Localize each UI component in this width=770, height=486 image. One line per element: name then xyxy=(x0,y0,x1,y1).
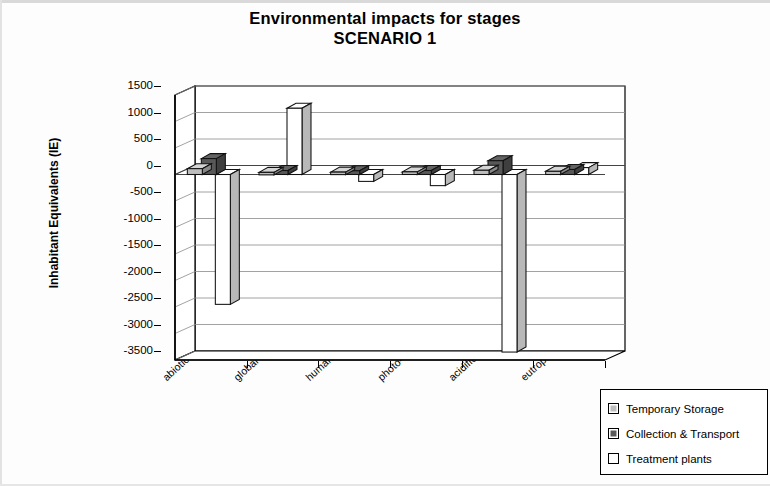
legend-label-temporary-storage: Temporary Storage xyxy=(626,403,724,415)
y-tick-mark xyxy=(154,166,161,167)
legend-item: Temporary Storage xyxy=(608,396,761,421)
bars-layer xyxy=(175,95,645,385)
chart-page: Environmental impacts for stages SCENARI… xyxy=(0,0,770,486)
y-axis-title: Inhabitant Equivalents (IE) xyxy=(47,118,61,308)
y-tick-mark xyxy=(154,86,161,87)
page-edge-left xyxy=(0,0,2,486)
y-tick-mark xyxy=(154,298,161,299)
y-tick-label: 1000 xyxy=(97,107,153,118)
legend-swatch-collection-transport xyxy=(608,428,619,439)
plot-area xyxy=(175,95,605,360)
y-tick-label: -2000 xyxy=(97,266,153,277)
legend-swatch-treatment-plants xyxy=(608,453,619,464)
y-tick-mark xyxy=(154,351,161,352)
legend-item: Collection & Transport xyxy=(608,421,761,446)
chart-title-line2: SCENARIO 1 xyxy=(0,28,770,48)
legend-item: Treatment plants xyxy=(608,446,761,471)
legend-label-collection-transport: Collection & Transport xyxy=(626,428,739,440)
page-edge-top xyxy=(0,0,770,3)
y-tick-label: 1500 xyxy=(97,80,153,91)
y-tick-label: -1500 xyxy=(97,239,153,250)
y-tick-label: 0 xyxy=(97,160,153,171)
bar xyxy=(502,170,526,353)
legend-swatch-temporary-storage xyxy=(608,403,619,414)
y-tick-mark xyxy=(154,219,161,220)
bar xyxy=(287,103,311,174)
bar xyxy=(215,170,239,305)
y-tick-mark xyxy=(154,245,161,246)
legend-label-treatment-plants: Treatment plants xyxy=(626,453,712,465)
chart-title: Environmental impacts for stages SCENARI… xyxy=(0,8,770,48)
y-tick-label: -1000 xyxy=(97,213,153,224)
y-tick-mark xyxy=(154,113,161,114)
y-tick-label: 500 xyxy=(97,133,153,144)
chart-legend: Temporary Storage Collection & Transport… xyxy=(600,389,768,475)
y-tick-mark xyxy=(154,139,161,140)
y-tick-mark xyxy=(154,192,161,193)
y-tick-label: -2500 xyxy=(97,292,153,303)
y-tick-label: -3500 xyxy=(97,345,153,356)
y-tick-mark xyxy=(154,325,161,326)
y-tick-label: -500 xyxy=(97,186,153,197)
chart-title-line1: Environmental impacts for stages xyxy=(249,9,520,27)
y-tick-mark xyxy=(154,272,161,273)
y-tick-label: -3000 xyxy=(97,319,153,330)
